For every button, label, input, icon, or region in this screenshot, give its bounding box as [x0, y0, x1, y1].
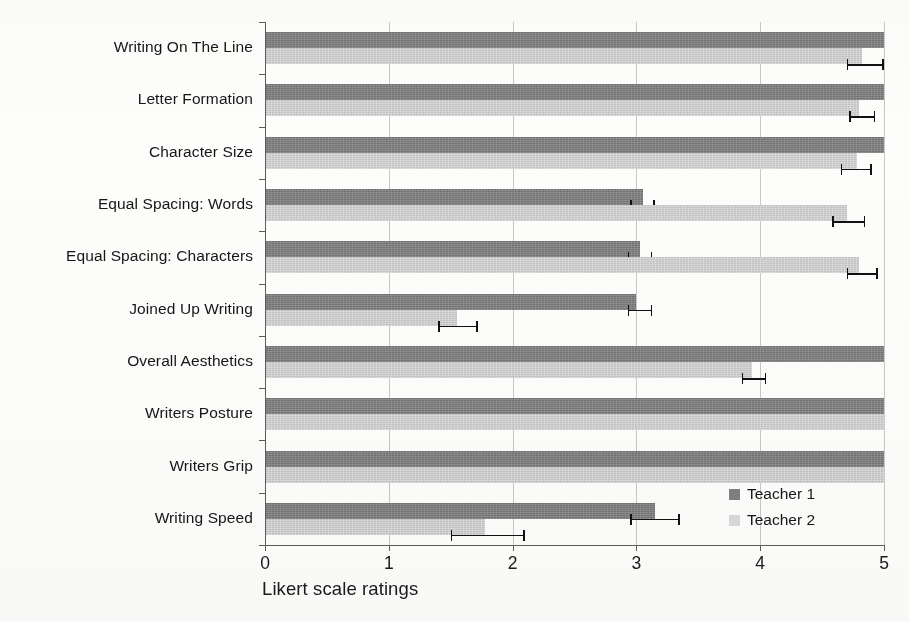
error-bar — [841, 164, 872, 175]
y-tick — [259, 127, 266, 128]
bar — [265, 257, 859, 273]
bar-chart: 012345 Writing On The LineLetter Formati… — [0, 0, 909, 622]
error-bar-cap — [651, 305, 653, 316]
chart-legend: Teacher 1 Teacher 2 — [729, 481, 879, 533]
category-label: Joined Up Writing — [10, 300, 253, 318]
error-bar-cap — [864, 216, 866, 227]
error-bar — [630, 514, 680, 525]
bar — [265, 48, 862, 64]
error-bar-cap — [874, 111, 876, 122]
error-bar-line — [847, 64, 884, 66]
bar — [265, 205, 847, 221]
error-bar-line — [438, 326, 478, 328]
bar — [265, 362, 752, 378]
bar — [265, 294, 636, 310]
category-label: Letter Formation — [10, 90, 253, 108]
x-tick — [389, 545, 390, 551]
x-tick — [760, 545, 761, 551]
legend-label: Teacher 2 — [747, 511, 815, 529]
legend-item-teacher-2: Teacher 2 — [729, 507, 879, 533]
y-tick — [259, 545, 266, 546]
x-tick-label: 5 — [879, 553, 889, 574]
error-bar — [832, 216, 865, 227]
category-label: Character Size — [10, 143, 253, 161]
x-tick-label: 2 — [508, 553, 518, 574]
error-bar — [438, 321, 478, 332]
error-bar — [849, 111, 875, 122]
bar — [265, 189, 643, 205]
bar — [265, 137, 884, 153]
error-bar — [451, 530, 525, 541]
error-bar-line — [628, 310, 653, 312]
x-tick — [884, 545, 885, 551]
x-tick — [636, 545, 637, 551]
error-bar-line — [841, 169, 872, 171]
x-axis-line — [265, 545, 885, 546]
error-bar-cap — [847, 268, 849, 279]
error-bar-cap — [832, 216, 834, 227]
error-bar-cap — [847, 59, 849, 70]
category-label: Equal Spacing: Words — [10, 195, 253, 213]
error-bar-cap — [438, 321, 440, 332]
category-label: Writing On The Line — [10, 38, 253, 56]
error-bar-line — [451, 535, 525, 537]
error-bar-line — [742, 378, 767, 380]
plot-area — [265, 22, 884, 545]
x-tick-label: 1 — [384, 553, 394, 574]
y-tick — [259, 440, 266, 441]
error-bar-cap — [882, 59, 884, 70]
error-bar-cap — [870, 164, 872, 175]
x-tick — [513, 545, 514, 551]
bar — [265, 414, 884, 430]
error-bar-cap — [849, 111, 851, 122]
bar — [265, 241, 640, 257]
bar — [265, 100, 859, 116]
legend-swatch-icon — [729, 515, 740, 526]
bar — [265, 398, 884, 414]
error-bar-line — [832, 221, 865, 223]
y-tick — [259, 22, 266, 23]
error-bar — [742, 373, 767, 384]
error-bar-cap — [523, 530, 525, 541]
error-bar-cap — [451, 530, 453, 541]
error-bar-cap — [476, 321, 478, 332]
bar — [265, 32, 884, 48]
bar — [265, 84, 884, 100]
bar — [265, 346, 884, 362]
bar — [265, 153, 857, 169]
x-tick-label: 4 — [755, 553, 765, 574]
error-bar — [847, 59, 884, 70]
error-bar-cap — [678, 514, 680, 525]
legend-label: Teacher 1 — [747, 485, 815, 503]
category-label: Writers Posture — [10, 404, 253, 422]
error-bar-cap — [765, 373, 767, 384]
error-bar-line — [849, 116, 875, 118]
category-label: Writing Speed — [10, 509, 253, 527]
y-tick — [259, 388, 266, 389]
error-bar-cap — [630, 514, 632, 525]
y-tick — [259, 231, 266, 232]
y-tick — [259, 284, 266, 285]
x-tick-label: 3 — [632, 553, 642, 574]
legend-swatch-icon — [729, 489, 740, 500]
error-bar-cap — [742, 373, 744, 384]
error-bar-cap — [876, 268, 878, 279]
y-tick — [259, 336, 266, 337]
y-tick — [259, 179, 266, 180]
category-label: Equal Spacing: Characters — [10, 247, 253, 265]
error-bar — [847, 268, 878, 279]
legend-item-teacher-1: Teacher 1 — [729, 481, 879, 507]
bar — [265, 310, 457, 326]
y-tick — [259, 74, 266, 75]
bar — [265, 503, 655, 519]
category-label: Writers Grip — [10, 457, 253, 475]
bar — [265, 451, 884, 467]
x-tick-label: 0 — [260, 553, 270, 574]
error-bar-line — [630, 519, 680, 521]
error-bar — [628, 305, 653, 316]
x-axis-title: Likert scale ratings — [262, 578, 418, 600]
error-bar-line — [847, 273, 878, 275]
error-bar-cap — [841, 164, 843, 175]
gridline — [884, 22, 885, 545]
y-tick — [259, 493, 266, 494]
